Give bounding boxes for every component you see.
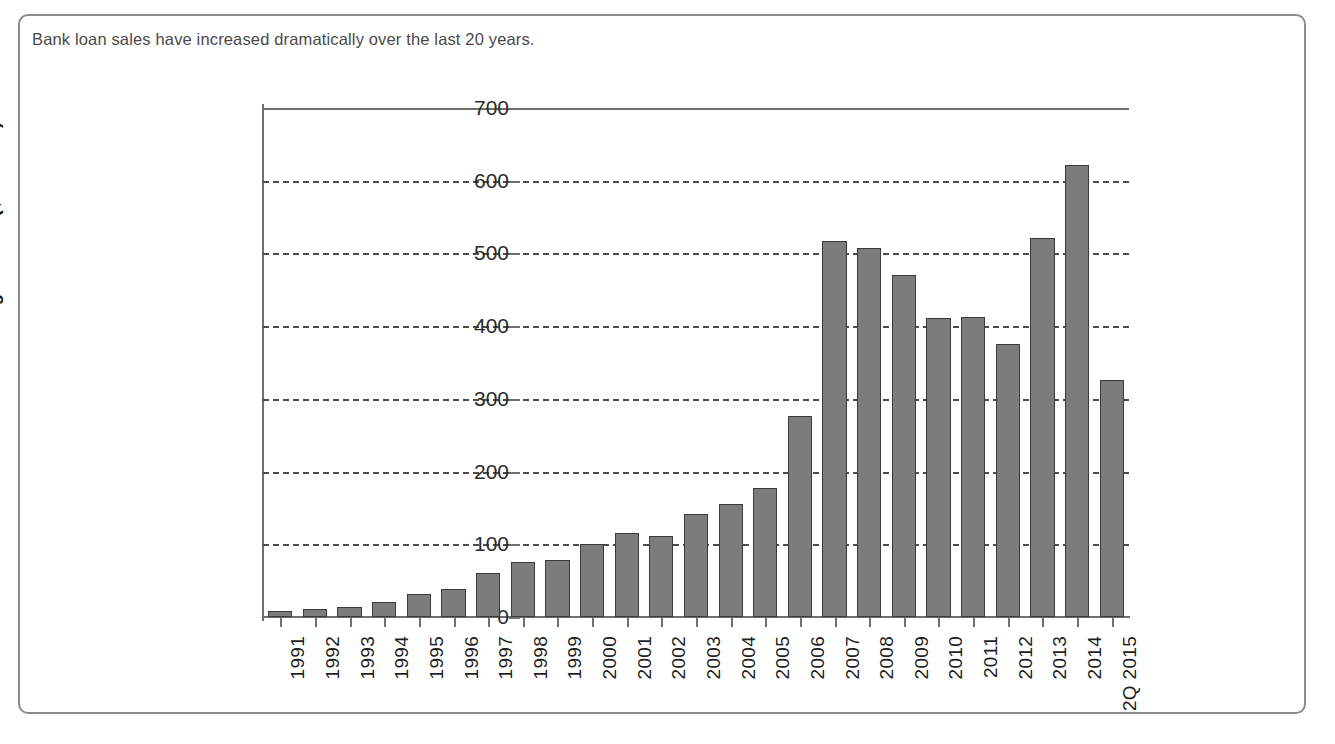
bar-2003 — [684, 514, 708, 617]
x-tick-label-1992: 1992 — [322, 636, 344, 679]
x-tick-label-1999: 1999 — [564, 636, 586, 679]
x-tick-mark-2003 — [696, 617, 698, 627]
x-tick-label-1997: 1997 — [495, 636, 517, 679]
y-tick-mark — [509, 617, 520, 619]
bar-chart: Trading Volume ($ billions) 010020030040… — [0, 0, 1335, 744]
x-tick-label-2003: 2003 — [703, 636, 725, 679]
x-tick-mark-1999 — [557, 617, 559, 627]
x-tick-mark-2001 — [627, 617, 629, 627]
x-tick-label-2010: 2010 — [945, 636, 967, 679]
x-tick-mark-2013 — [1042, 617, 1044, 627]
x-tick-mark-2010 — [938, 617, 940, 627]
bar-1996 — [441, 589, 465, 617]
x-tick-label-2012: 2012 — [1015, 636, 1037, 679]
x-tick-mark-2000 — [592, 617, 594, 627]
x-tick-label-1991: 1991 — [287, 636, 309, 679]
bar-2006 — [788, 416, 812, 617]
bar-1993 — [337, 607, 361, 617]
x-tick-label-2014: 2014 — [1084, 636, 1106, 679]
x-tick-label-2006: 2006 — [807, 636, 829, 679]
x-tick-mark-2014 — [1077, 617, 1079, 627]
x-tick-label-2005: 2005 — [772, 636, 794, 679]
x-tick-label-1995: 1995 — [426, 636, 448, 679]
x-tick-label-1998: 1998 — [530, 636, 552, 679]
x-tick-label-2013: 2013 — [1049, 636, 1071, 679]
x-tick-mark-1994 — [384, 617, 386, 627]
x-tick-mark-1998 — [523, 617, 525, 627]
x-tick-label-2004: 2004 — [738, 636, 760, 679]
x-tick-mark-2011 — [973, 617, 975, 627]
x-tick-mark-2007 — [835, 617, 837, 627]
bar-2007 — [822, 241, 846, 617]
x-tick-mark-2Q-2015 — [1112, 617, 1114, 627]
x-tick-label-2007: 2007 — [842, 636, 864, 679]
bar-1994 — [372, 602, 396, 617]
x-tick-mark-1996 — [454, 617, 456, 627]
x-tick-mark-1991 — [280, 617, 282, 627]
x-tick-label-1993: 1993 — [357, 636, 379, 679]
x-tick-mark-2005 — [765, 617, 767, 627]
bar-2001 — [615, 533, 639, 617]
bar-2004 — [719, 504, 743, 617]
x-tick-label-2009: 2009 — [911, 636, 933, 679]
y-axis-title: Trading Volume ($ billions) — [0, 122, 4, 362]
bar-2005 — [753, 488, 777, 617]
x-tick-label-2008: 2008 — [876, 636, 898, 679]
bars-group — [263, 108, 1129, 617]
bar-2014 — [1065, 165, 1089, 617]
bar-2002 — [649, 536, 673, 617]
bar-2010 — [926, 318, 950, 617]
x-tick-mark-1997 — [488, 617, 490, 627]
x-tick-label-2000: 2000 — [599, 636, 621, 679]
bar-1995 — [407, 594, 431, 617]
x-tick-mark-2004 — [731, 617, 733, 627]
x-tick-label-2Q-2015: 2Q 2015 — [1119, 636, 1141, 711]
bar-2011 — [961, 317, 985, 617]
x-tick-mark-1993 — [350, 617, 352, 627]
x-tick-label-1996: 1996 — [461, 636, 483, 679]
bar-2Q-2015 — [1100, 380, 1124, 617]
x-tick-label-2001: 2001 — [634, 636, 656, 679]
bar-1999 — [545, 560, 569, 617]
bar-2000 — [580, 544, 604, 617]
x-tick-mark-1995 — [419, 617, 421, 627]
x-tick-mark-2008 — [869, 617, 871, 627]
figure-page: Bank loan sales have increased dramatica… — [0, 0, 1335, 744]
x-tick-mark-2002 — [661, 617, 663, 627]
x-tick-label-1994: 1994 — [391, 636, 413, 679]
bar-2013 — [1030, 238, 1054, 617]
bar-2008 — [857, 248, 881, 617]
x-tick-mark-2012 — [1008, 617, 1010, 627]
bar-2009 — [892, 275, 916, 617]
bar-1992 — [303, 609, 327, 617]
x-tick-mark-1992 — [315, 617, 317, 627]
bar-1998 — [511, 562, 535, 617]
bar-2012 — [996, 344, 1020, 617]
x-tick-mark-2009 — [904, 617, 906, 627]
x-tick-label-2011: 2011 — [980, 636, 1002, 678]
plot-area: 0100200300400500600700 19911992199319941… — [263, 108, 1129, 617]
x-tick-mark-2006 — [800, 617, 802, 627]
x-tick-label-2002: 2002 — [668, 636, 690, 679]
bar-1997 — [476, 573, 500, 617]
